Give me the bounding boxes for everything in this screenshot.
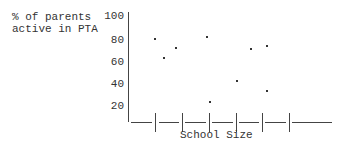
x-axis-label: School Size bbox=[180, 129, 253, 141]
plot-area bbox=[0, 0, 339, 153]
data-points bbox=[154, 36, 268, 103]
